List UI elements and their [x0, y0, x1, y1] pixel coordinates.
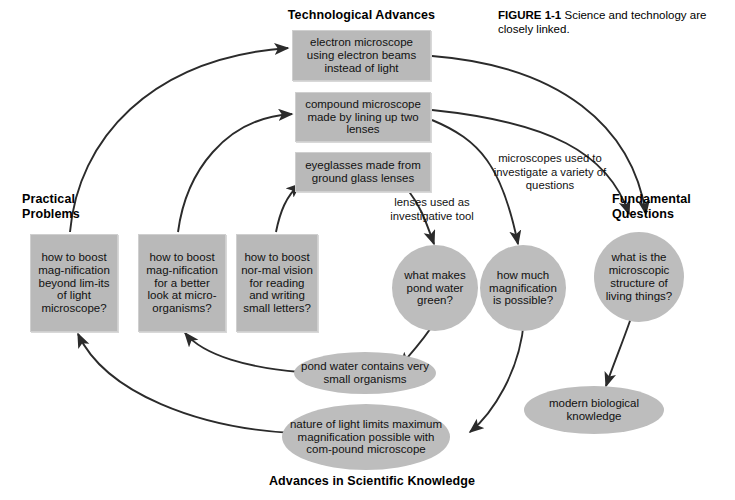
- heading-practical-problems: Practical Problems: [22, 192, 142, 222]
- tech-box-eyeglasses[interactable]: eyeglasses made from ground glass lenses: [295, 152, 431, 192]
- problem-box-boost-normal-vision[interactable]: how to boost nor-mal vision for reading …: [236, 234, 318, 332]
- edge-problem2-to-compound: [178, 114, 292, 232]
- problem-box-boost-magnification-microorganisms[interactable]: how to boost mag-nification for a better…: [138, 234, 226, 332]
- heading-technological-advances: Technological Advances: [274, 8, 449, 23]
- edge-natureoflight-to-problem1: [78, 334, 292, 433]
- knowledge-ellipse-modern-biological-knowledge[interactable]: modern biological knowledge: [524, 386, 664, 434]
- edge-pondorganisms-to-problem2: [185, 333, 300, 372]
- figure-caption: FIGURE 1-1 Science and technology are cl…: [498, 8, 730, 37]
- edge-howmuch-to-natureoflight: [470, 320, 524, 432]
- question-circle-microscopic-structure[interactable]: what is the microscopic structure of liv…: [594, 232, 684, 322]
- tech-box-compound-microscope[interactable]: compound microscope made by lining up tw…: [295, 92, 431, 142]
- question-circle-pond-water-green[interactable]: what makes pond water green?: [392, 245, 478, 331]
- knowledge-ellipse-pond-water-organisms[interactable]: pond water contains very small organisms: [294, 352, 436, 394]
- figure-canvas: Technological Advances Practical Problem…: [0, 0, 735, 500]
- question-circle-how-much-magnification[interactable]: how much magnification is possible?: [480, 245, 566, 331]
- figure-caption-label: FIGURE 1-1: [498, 9, 561, 21]
- tech-box-electron-microscope[interactable]: electron microscope using electron beams…: [292, 30, 431, 81]
- edge-structure-to-modernbio: [606, 318, 631, 386]
- edge-label-microscopes-variety-questions: microscopes used to investigate a variet…: [474, 152, 626, 193]
- problem-box-boost-magnification-light-limits[interactable]: how to boost mag-nification beyond lim-i…: [30, 234, 118, 332]
- heading-fundamental-questions: Fundamental Questions: [612, 192, 730, 222]
- edge-label-lenses-investigative-tool: lenses used as investigative tool: [372, 196, 492, 223]
- heading-advances-in-scientific-knowledge: Advances in Scientific Knowledge: [212, 474, 532, 489]
- knowledge-ellipse-nature-of-light-limits[interactable]: nature of light limits maximum magnifica…: [282, 404, 450, 470]
